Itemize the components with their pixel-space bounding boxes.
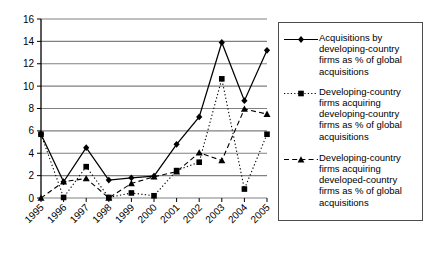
legend-swatch-dotted-square-icon: [283, 87, 319, 100]
data-point-square: [129, 190, 135, 196]
x-tick-label-1996: 1996: [45, 201, 69, 225]
y-tick-label-4: 4: [28, 148, 34, 159]
y-tick-label-6: 6: [28, 125, 34, 136]
legend-label-0: Acquisitions by developing-country firms…: [319, 32, 402, 77]
legend-entry-developing-acquiring-developed: Developing-country firms acquiring devel…: [279, 152, 422, 208]
x-tick-label-1999: 1999: [113, 201, 137, 225]
data-point-triangle: [196, 149, 203, 155]
x-tick-label-2004: 2004: [226, 201, 250, 225]
x-tick-label-2002: 2002: [181, 201, 205, 225]
x-tick-label-1995: 1995: [22, 201, 46, 225]
y-tick-label-14: 14: [23, 36, 35, 47]
line-chart-figure: 0246810121416199519961997199819992000200…: [0, 0, 429, 259]
y-tick-label-8: 8: [28, 103, 34, 114]
y-tick-label-2: 2: [28, 170, 34, 181]
data-point-square: [151, 193, 157, 199]
data-point-square: [264, 131, 270, 137]
legend-swatch-dashed-triangle-icon: [283, 153, 319, 166]
x-tick-label-2000: 2000: [135, 201, 159, 225]
data-point-square: [83, 164, 89, 170]
y-tick-label-12: 12: [23, 58, 35, 69]
series-1: [38, 76, 270, 200]
data-point-square: [38, 131, 44, 137]
plot-area: 0246810121416199519961997199819992000200…: [0, 0, 275, 259]
data-point-square: [196, 159, 202, 165]
legend-label-2: Developing-country firms acquiring devel…: [319, 152, 402, 208]
data-point-diamond: [219, 39, 225, 46]
data-point-diamond: [241, 97, 247, 104]
chart-legend: Acquisitions by developing-country firms…: [278, 22, 423, 221]
x-tick-label-2001: 2001: [158, 201, 182, 225]
data-point-square: [219, 76, 225, 82]
data-point-triangle: [264, 111, 271, 117]
data-point-square: [242, 186, 248, 192]
legend-entry-acquisitions-by-developing-country-firms: Acquisitions by developing-country firms…: [279, 32, 422, 77]
legend-label-1: Developing-country firms acquiring devel…: [319, 86, 402, 142]
gridlines-group: 0246810121416: [23, 14, 267, 204]
y-tick-label-0: 0: [28, 193, 34, 204]
x-axis-group: 1995199619971998199920002001200220032004…: [22, 198, 272, 225]
data-point-square: [61, 195, 67, 201]
legend-entry-developing-acquiring-developing: Developing-country firms acquiring devel…: [279, 86, 422, 142]
plot-svg: 0246810121416199519961997199819992000200…: [0, 0, 275, 259]
x-tick-label-1998: 1998: [90, 201, 114, 225]
series-line-1: [41, 79, 267, 198]
legend-swatch-solid-diamond-icon: [283, 33, 319, 46]
y-tick-label-10: 10: [23, 81, 35, 92]
x-tick-label-2005: 2005: [248, 201, 272, 225]
data-point-diamond: [264, 47, 270, 54]
x-tick-label-1997: 1997: [68, 201, 92, 225]
y-tick-label-16: 16: [23, 14, 35, 25]
x-tick-label-2003: 2003: [203, 201, 227, 225]
series-0: [38, 39, 270, 185]
